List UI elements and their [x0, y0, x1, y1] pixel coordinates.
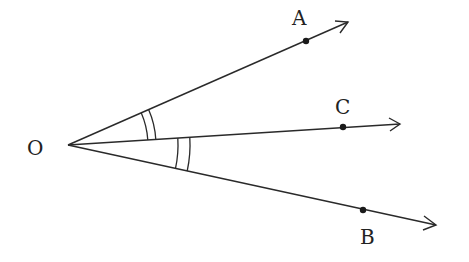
- label-o: O: [27, 136, 43, 160]
- label-c: C: [335, 95, 350, 119]
- diagram-canvas: O A C B: [0, 0, 469, 262]
- angle-arc-cob-inner: [176, 138, 179, 168]
- ray-oc: [68, 124, 400, 145]
- point-c: [340, 124, 346, 130]
- angle-arc-aoc-outer: [149, 110, 156, 140]
- angle-arc-cob-outer: [187, 137, 190, 171]
- angle-diagram: O A C B: [0, 0, 469, 262]
- point-a: [303, 38, 309, 44]
- label-a: A: [291, 6, 307, 30]
- angle-arc-aoc-inner: [141, 113, 148, 140]
- ray-ob: [68, 145, 436, 225]
- point-b: [360, 207, 366, 213]
- label-b: B: [360, 225, 375, 249]
